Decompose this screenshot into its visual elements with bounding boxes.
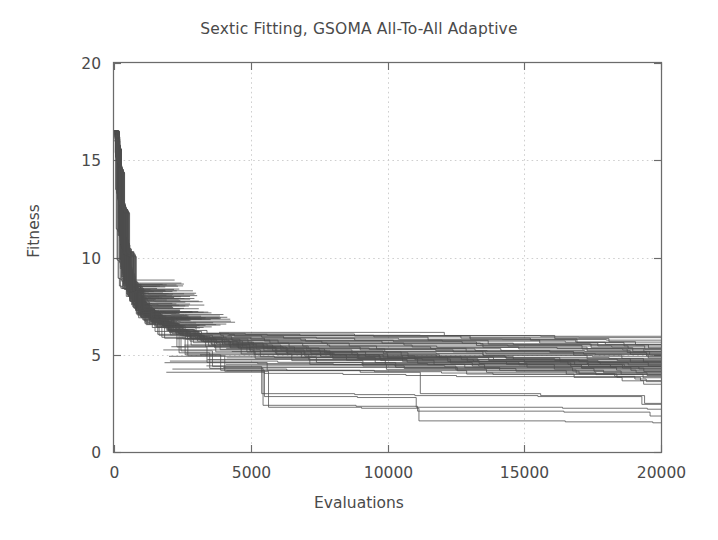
plot-area: 0500010000150002000005101520 [0,0,718,540]
y-tick-label: 15 [81,152,101,170]
y-tick-label: 5 [91,347,101,365]
trace-line [114,137,661,423]
y-tick-label: 10 [81,250,101,268]
axis-ticks [114,63,662,453]
trace-line [114,131,661,342]
x-tick-label: 15000 [500,464,549,482]
trace-line [114,131,661,338]
trace-line [114,135,661,345]
plot-frame [114,63,662,453]
x-tick-label: 0 [110,464,120,482]
y-tick-label: 0 [91,444,101,462]
data-traces [114,131,661,423]
x-tick-label: 5000 [232,464,271,482]
trace-line [114,135,661,355]
x-tick-label: 20000 [637,464,686,482]
chart-figure: Sextic Fitting, GSOMA All-To-All Adaptiv… [0,0,718,540]
axis-tick-labels: 0500010000150002000005101520 [81,55,686,482]
x-tick-label: 10000 [364,464,413,482]
y-tick-label: 20 [81,55,101,73]
trace-line [114,131,661,336]
gridlines [114,63,661,452]
